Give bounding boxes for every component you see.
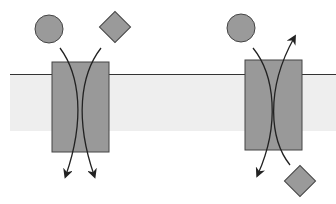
transporter-protein xyxy=(52,62,109,152)
circle-molecule xyxy=(227,14,255,42)
diamond-molecule xyxy=(99,11,130,42)
transport-diagram xyxy=(0,0,336,204)
diamond-molecule xyxy=(284,165,315,196)
circle-molecule xyxy=(35,15,63,43)
